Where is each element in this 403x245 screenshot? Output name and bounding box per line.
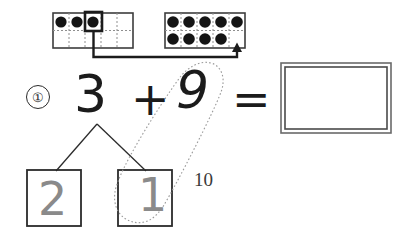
- bond-line-left: [56, 124, 97, 171]
- right-frame-dot-6: [167, 33, 179, 45]
- answer-box[interactable]: [281, 63, 391, 133]
- worksheet-canvas: ① 3 + 9 = 2 1 10: [0, 0, 403, 245]
- right-frame-dot-3: [199, 16, 211, 28]
- left-frame-dot-2: [71, 16, 82, 27]
- answer-box-inner-border: [285, 67, 387, 129]
- right-ten-frame[interactable]: [165, 13, 245, 48]
- right-frame-dot-9: [215, 33, 227, 45]
- part-value-left: 2: [38, 176, 67, 222]
- right-frame-dot-4: [215, 16, 227, 28]
- bond-line-right: [97, 124, 146, 171]
- number-bond-lines: [56, 124, 146, 171]
- make-ten-label: 10: [194, 170, 213, 189]
- part-value-right: 1: [138, 172, 167, 218]
- right-frame-dot-7: [183, 33, 195, 45]
- plus-sign-icon: +: [131, 76, 170, 122]
- right-frame-dot-1: [167, 16, 179, 28]
- right-frame-dot-2: [183, 16, 195, 28]
- first-addend: 3: [74, 68, 107, 120]
- left-frame-dot-3: [87, 16, 98, 27]
- left-frame-dot-1: [55, 16, 66, 27]
- right-frame-dot-5: [231, 16, 243, 28]
- right-frame-dot-8: [199, 33, 211, 45]
- equals-sign-icon: =: [232, 76, 271, 122]
- second-addend: 9: [176, 64, 209, 116]
- problem-number: ①: [26, 85, 50, 109]
